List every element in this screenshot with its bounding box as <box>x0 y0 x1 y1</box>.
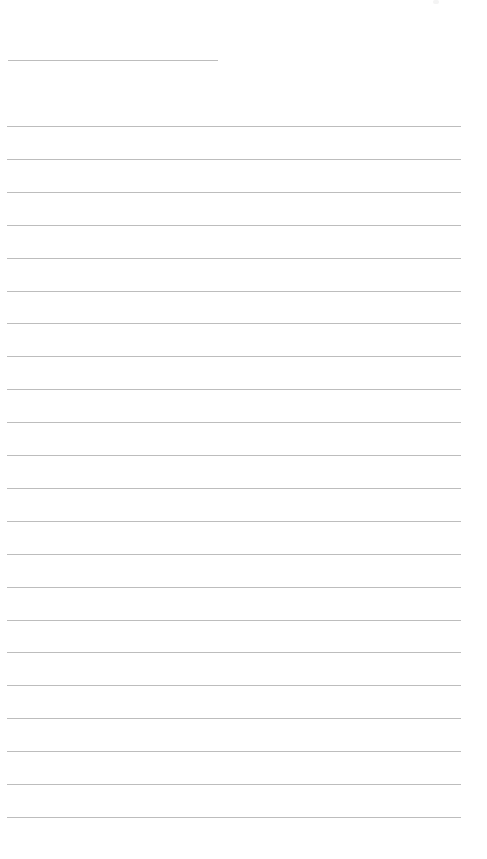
writing-line <box>7 620 461 621</box>
writing-line <box>7 652 461 653</box>
writing-line <box>7 817 461 818</box>
paper-smudge <box>433 0 439 4</box>
writing-line <box>7 718 461 719</box>
writing-line <box>7 784 461 785</box>
title-line <box>8 60 218 61</box>
lined-page <box>0 0 487 859</box>
writing-line <box>7 751 461 752</box>
writing-line <box>7 126 461 127</box>
writing-line <box>7 554 461 555</box>
writing-line <box>7 455 461 456</box>
writing-line <box>7 159 461 160</box>
writing-line <box>7 685 461 686</box>
writing-line <box>7 192 461 193</box>
writing-line <box>7 389 461 390</box>
writing-line <box>7 225 461 226</box>
writing-line <box>7 356 461 357</box>
writing-line <box>7 488 461 489</box>
writing-line <box>7 422 461 423</box>
writing-line <box>7 291 461 292</box>
writing-line <box>7 258 461 259</box>
writing-line <box>7 323 461 324</box>
writing-line <box>7 587 461 588</box>
writing-line <box>7 521 461 522</box>
